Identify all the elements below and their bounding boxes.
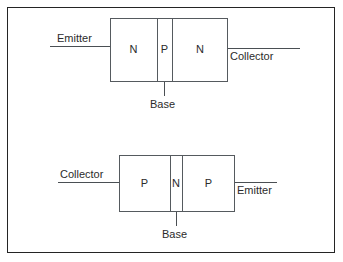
npn-base-lead bbox=[164, 82, 165, 96]
pnp-collector-lead bbox=[58, 182, 119, 183]
npn-collector-label: Collector bbox=[230, 50, 273, 62]
npn-region-emitter-label: N bbox=[110, 44, 157, 55]
npn-collector-lead bbox=[228, 48, 300, 49]
transistor-structure-figure: Emitter N P N Collector Base Collector P… bbox=[0, 0, 343, 262]
npn-region-base-label: P bbox=[157, 44, 172, 55]
pnp-region-emitter-label: P bbox=[182, 178, 235, 189]
npn-emitter-lead bbox=[50, 46, 111, 47]
pnp-collector-label: Collector bbox=[60, 168, 103, 180]
pnp-base-label: Base bbox=[162, 228, 187, 240]
pnp-region-collector-label: P bbox=[119, 178, 170, 189]
pnp-emitter-lead bbox=[235, 182, 277, 183]
npn-base-label: Base bbox=[150, 98, 175, 110]
pnp-region-base-label: N bbox=[170, 178, 182, 189]
pnp-emitter-label: Emitter bbox=[237, 184, 272, 196]
pnp-base-lead bbox=[176, 212, 177, 226]
npn-emitter-label: Emitter bbox=[57, 32, 92, 44]
npn-region-collector-label: N bbox=[172, 44, 228, 55]
